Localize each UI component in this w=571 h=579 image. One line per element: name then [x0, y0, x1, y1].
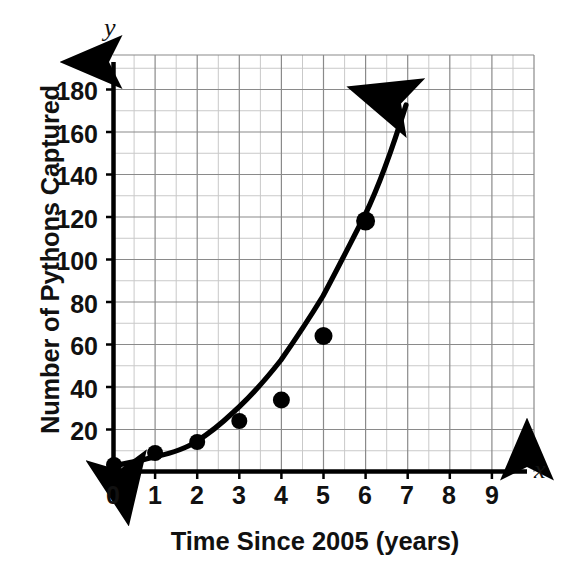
x-axis-title: Time Since 2005 (years)	[105, 527, 525, 556]
x-tick-label-3: 3	[224, 481, 254, 510]
y-axis-title: Number of Pythons Captured	[36, 60, 65, 460]
x-tick-label-6: 6	[350, 481, 380, 510]
data-point	[147, 445, 163, 461]
x-tick-label-5: 5	[308, 481, 338, 510]
x-tick-label-2: 2	[182, 481, 212, 510]
x-tick-label-4: 4	[266, 481, 296, 510]
x-axis-variable-name: x	[534, 455, 546, 485]
chart-figure: 20 40 60 80 100 120 140 160 180 0 1 2 3 …	[0, 0, 571, 579]
x-tick-label-7: 7	[392, 481, 422, 510]
data-point	[273, 392, 290, 409]
data-point	[231, 413, 247, 429]
y-axis-variable-name: y	[104, 13, 116, 43]
data-point	[189, 434, 205, 450]
x-tick-label-0: 0	[98, 481, 128, 510]
x-tick-label-8: 8	[434, 481, 464, 510]
x-tick-label-9: 9	[477, 481, 507, 510]
data-point	[356, 212, 375, 231]
data-point	[106, 457, 122, 473]
data-point	[315, 327, 333, 345]
x-tick-label-1: 1	[140, 481, 170, 510]
